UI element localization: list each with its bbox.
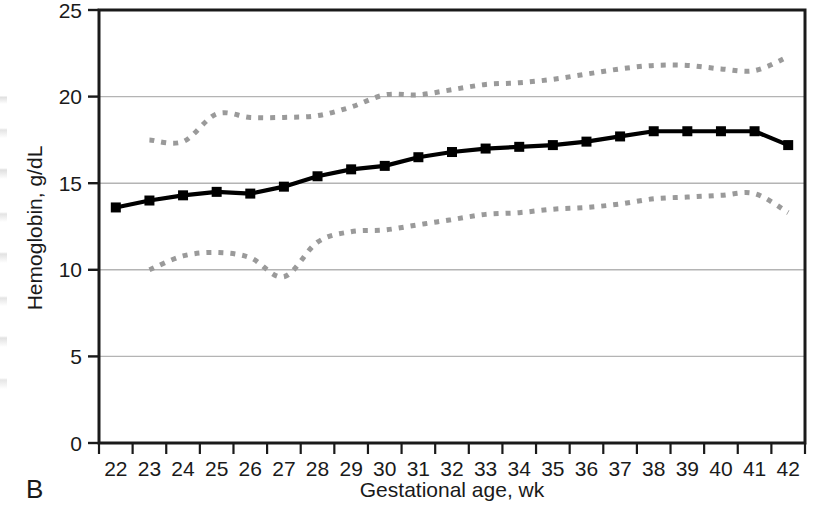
data-point-marker-25 xyxy=(212,187,222,197)
x-tick-label-37: 37 xyxy=(608,457,631,480)
panel-label: B xyxy=(26,474,43,504)
plot-border xyxy=(99,10,805,443)
series-3 xyxy=(149,193,788,277)
y-tick-label-10: 10 xyxy=(59,258,82,281)
data-point-marker-39 xyxy=(682,126,692,136)
data-point-marker-28 xyxy=(313,171,323,181)
data-point-marker-24 xyxy=(178,190,188,200)
x-axis-title: Gestational age, wk xyxy=(360,478,545,501)
x-tick-label-25: 25 xyxy=(205,457,228,480)
y-tick-label-15: 15 xyxy=(59,172,82,195)
data-point-marker-37 xyxy=(615,131,625,141)
y-axis-tick-labels: 0510152025 xyxy=(59,0,82,455)
figure-panel-b: 0510152025 22232425262728293031323334353… xyxy=(0,0,823,515)
x-tick-label-22: 22 xyxy=(104,457,127,480)
y-tick-label-25: 25 xyxy=(59,0,82,22)
x-tick-label-35: 35 xyxy=(541,457,564,480)
x-tick-label-32: 32 xyxy=(440,457,463,480)
x-tick-label-41: 41 xyxy=(743,457,766,480)
series-line-dotted xyxy=(149,193,788,277)
x-tick-label-30: 30 xyxy=(373,457,396,480)
data-point-marker-32 xyxy=(447,147,457,157)
x-tick-label-24: 24 xyxy=(171,457,195,480)
y-tick-label-0: 0 xyxy=(70,432,82,455)
data-point-marker-29 xyxy=(346,164,356,174)
x-tick-label-27: 27 xyxy=(272,457,295,480)
hemoglobin-gestational-age-chart: 0510152025 22232425262728293031323334353… xyxy=(0,0,823,515)
x-tick-label-23: 23 xyxy=(138,457,161,480)
x-tick-label-42: 42 xyxy=(777,457,800,480)
data-point-marker-36 xyxy=(581,137,591,147)
x-tick-label-34: 34 xyxy=(508,457,532,480)
data-point-marker-41 xyxy=(750,126,760,136)
plot-frame xyxy=(99,10,805,443)
x-axis-tick-labels: 2223242526272829303132333435363738394041… xyxy=(104,457,800,480)
data-point-marker-31 xyxy=(413,152,423,162)
data-point-marker-35 xyxy=(548,140,558,150)
data-point-marker-33 xyxy=(481,144,491,154)
data-point-marker-23 xyxy=(144,196,154,206)
y-axis-title: Hemoglobin, g/dL xyxy=(23,146,46,311)
data-point-marker-26 xyxy=(245,189,255,199)
x-axis-ticks xyxy=(99,443,805,454)
x-tick-label-39: 39 xyxy=(676,457,699,480)
data-point-marker-27 xyxy=(279,182,289,192)
x-tick-label-33: 33 xyxy=(474,457,497,480)
x-tick-label-31: 31 xyxy=(407,457,430,480)
data-point-marker-22 xyxy=(111,202,121,212)
x-tick-label-29: 29 xyxy=(339,457,362,480)
data-point-marker-42 xyxy=(783,140,793,150)
y-tick-label-20: 20 xyxy=(59,85,82,108)
x-tick-label-40: 40 xyxy=(709,457,732,480)
data-point-marker-30 xyxy=(380,161,390,171)
x-tick-label-26: 26 xyxy=(239,457,262,480)
data-series-layer xyxy=(111,57,793,277)
series-1 xyxy=(111,126,793,212)
x-tick-label-36: 36 xyxy=(575,457,598,480)
x-tick-label-38: 38 xyxy=(642,457,665,480)
data-point-marker-40 xyxy=(716,126,726,136)
data-point-marker-34 xyxy=(514,142,524,152)
y-axis-ticks xyxy=(88,10,99,443)
y-tick-label-5: 5 xyxy=(70,345,82,368)
gridlines xyxy=(99,97,805,357)
data-point-marker-38 xyxy=(649,126,659,136)
x-tick-label-28: 28 xyxy=(306,457,329,480)
